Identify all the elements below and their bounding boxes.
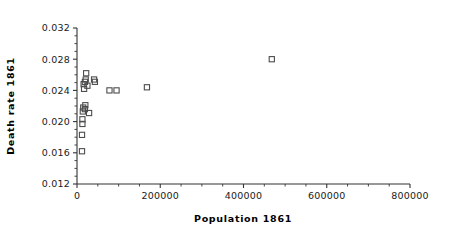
data-point-series: [79, 57, 274, 154]
x-tick-label: 200000: [142, 190, 179, 201]
x-axis-title: Population 1861: [194, 213, 292, 224]
y-tick-label: 0.032: [42, 22, 70, 33]
y-axis-title: Death rate 1861: [5, 57, 16, 155]
data-point-marker: [107, 88, 112, 93]
x-tick-label: 600000: [308, 190, 345, 201]
y-tick-label: 0.024: [42, 85, 70, 96]
data-point-marker: [114, 88, 119, 93]
x-tick-label: 800000: [391, 190, 428, 201]
x-tick-label: 400000: [225, 190, 262, 201]
x-axis-tick-labels: 0200000400000600000800000: [74, 190, 429, 201]
data-point-marker: [144, 85, 149, 90]
scatter-plot-figure: 0.0120.0160.0200.0240.0280.032 020000040…: [0, 0, 470, 237]
x-axis-major-ticks: [77, 184, 410, 188]
data-point-marker: [269, 57, 274, 62]
y-axis-tick-labels: 0.0120.0160.0200.0240.0280.032: [42, 22, 70, 189]
y-tick-label: 0.016: [42, 147, 70, 158]
y-tick-label: 0.028: [42, 54, 70, 65]
y-tick-label: 0.020: [42, 116, 70, 127]
y-tick-label: 0.012: [42, 178, 70, 189]
x-tick-label: 0: [74, 190, 80, 201]
chart-canvas: 0.0120.0160.0200.0240.0280.032 020000040…: [0, 0, 470, 237]
data-point-marker: [79, 132, 84, 137]
x-axis: 0200000400000600000800000: [74, 184, 429, 201]
data-point-marker: [84, 71, 89, 76]
data-point-marker: [79, 149, 84, 154]
y-axis: 0.0120.0160.0200.0240.0280.032: [42, 22, 77, 189]
